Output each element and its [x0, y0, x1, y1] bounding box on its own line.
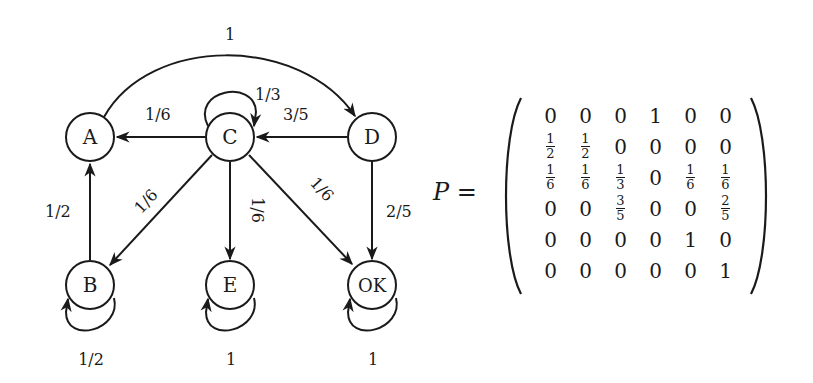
- matrix-cell: 0: [708, 100, 743, 131]
- matrix-cell: 0: [568, 255, 603, 286]
- edge-label-d-c: 3/5: [283, 105, 309, 124]
- node-ok: OK: [348, 261, 396, 309]
- fraction: 12: [581, 133, 590, 160]
- matrix-cell: 16: [533, 162, 568, 193]
- matrix-cell: 0: [568, 100, 603, 131]
- matrix-cell: 1: [673, 224, 708, 255]
- fraction: 35: [616, 195, 625, 222]
- node-d: D: [348, 113, 396, 161]
- matrix-cell: 0: [638, 162, 673, 193]
- matrix-cell: 12: [568, 131, 603, 162]
- edge-label-c-b: 1/6: [130, 185, 161, 217]
- matrix-cell: 0: [533, 193, 568, 224]
- matrix-cell: 0: [603, 224, 638, 255]
- node-e-label: E: [223, 273, 238, 297]
- edge-label-c-c: 1/3: [255, 85, 281, 104]
- edge-c-to-b: [110, 155, 212, 265]
- node-c-label: C: [222, 125, 237, 149]
- fraction: 16: [546, 164, 555, 191]
- matrix-cell: 1: [638, 100, 673, 131]
- matrix-cell: 0: [673, 100, 708, 131]
- matrix-cell: 12: [533, 131, 568, 162]
- fraction: 16: [581, 164, 590, 191]
- edge-label-b-b: 1/2: [78, 350, 104, 369]
- matrix-lhs: P =: [433, 178, 477, 206]
- equals-sign: =: [457, 178, 477, 206]
- matrix-cell: 0: [533, 100, 568, 131]
- transition-matrix: 0001001212000016161301616003500250000100…: [497, 96, 775, 296]
- fraction: 13: [616, 164, 625, 191]
- matrix-grid: 0001001212000016161301616003500250000100…: [533, 100, 743, 286]
- edge-label-c-ok: 1/6: [306, 173, 337, 205]
- edge-a-to-d: [104, 55, 355, 117]
- node-b: B: [66, 261, 114, 309]
- matrix-cell: 0: [638, 224, 673, 255]
- matrix-cell: 0: [638, 255, 673, 286]
- matrix-cell: 0: [638, 131, 673, 162]
- matrix-cell: 0: [673, 255, 708, 286]
- matrix-cell: 0: [638, 193, 673, 224]
- node-d-label: D: [364, 125, 380, 149]
- fraction: 16: [686, 164, 695, 191]
- fraction: 16: [721, 164, 730, 191]
- matrix-cell: 0: [603, 100, 638, 131]
- matrix-cell: 16: [673, 162, 708, 193]
- matrix-cell: 0: [603, 255, 638, 286]
- edge-label-ok-ok: 1: [368, 350, 378, 369]
- fraction: 12: [546, 133, 555, 160]
- node-a: A: [66, 113, 114, 161]
- edge-label-c-e: 1/6: [248, 197, 267, 223]
- matrix-cell: 1: [708, 255, 743, 286]
- matrix-cell: 0: [568, 224, 603, 255]
- edge-label-d-ok: 2/5: [386, 202, 412, 221]
- matrix-cell: 0: [673, 131, 708, 162]
- matrix-cell: 0: [673, 193, 708, 224]
- matrix-cell: 25: [708, 193, 743, 224]
- node-e: E: [206, 261, 254, 309]
- matrix-cell: 0: [708, 224, 743, 255]
- matrix-cell: 0: [603, 131, 638, 162]
- matrix-cell: 0: [568, 193, 603, 224]
- matrix-cell: 0: [708, 131, 743, 162]
- edge-label-c-a: 1/6: [145, 105, 171, 124]
- left-paren-icon: [497, 96, 527, 296]
- edge-label-e-e: 1: [226, 350, 236, 369]
- matrix-cell: 35: [603, 193, 638, 224]
- right-paren-icon: [745, 96, 775, 296]
- edge-label-a-d: 1: [225, 25, 235, 44]
- matrix-cell: 0: [533, 255, 568, 286]
- node-c: C: [206, 113, 254, 161]
- node-b-label: B: [83, 273, 98, 297]
- node-a-label: A: [82, 125, 98, 149]
- node-ok-label: OK: [358, 275, 387, 296]
- matrix-name: P: [433, 178, 449, 206]
- fraction: 25: [721, 195, 730, 222]
- matrix-cell: 16: [708, 162, 743, 193]
- matrix-cell: 13: [603, 162, 638, 193]
- edge-label-b-a: 1/2: [45, 202, 71, 221]
- markov-chain-graph: A C D B E OK 1 1/3 1/6 3/5 1/2 1/6 1/6 1…: [0, 0, 430, 383]
- matrix-cell: 16: [568, 162, 603, 193]
- matrix-cell: 0: [533, 224, 568, 255]
